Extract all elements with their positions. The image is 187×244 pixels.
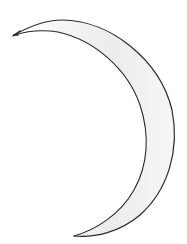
sketch-canvas	[0, 0, 187, 244]
crescent-moon-icon	[0, 0, 187, 244]
